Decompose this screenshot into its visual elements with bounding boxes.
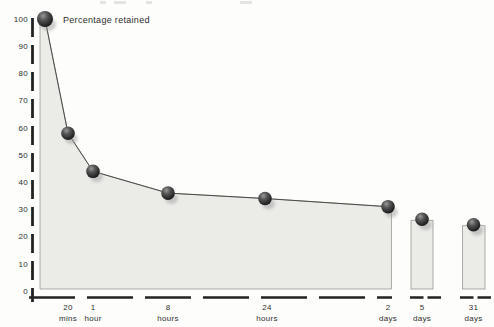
y-tick-label: 10 [19,260,29,269]
data-point [61,126,75,140]
y-tick-label: 90 [19,42,29,51]
x-tick-value: 31 [469,303,479,312]
y-tick-label: 100 [14,15,28,24]
x-tick-value: 8 [166,303,171,312]
x-tick-unit: hours [256,314,278,323]
x-tick-unit: hours [157,314,179,323]
cropped-caption-artifact [100,1,270,4]
x-tick-unit: days [413,314,431,323]
x-tick-unit: hour [84,314,101,323]
y-tick-label: 60 [19,124,29,133]
y-tick-label: 40 [19,178,29,187]
retention-chart: Percentage retained100908070605040302010… [0,0,494,327]
y-tick-label: 70 [19,96,29,105]
x-tick-value: 20 [63,303,73,312]
data-point [161,186,175,200]
y-tick-label: 30 [19,205,29,214]
data-point [415,212,429,226]
x-tick-value: 24 [262,303,272,312]
column-5-days [411,220,433,289]
chart-title: Percentage retained [63,15,150,25]
forgetting-curve-figure: Percentage retained100908070605040302010… [0,0,494,327]
data-point [258,192,272,206]
column-31-days [463,226,486,289]
x-tick-unit: days [464,314,482,323]
data-point [37,11,53,27]
y-tick-label: 0 [23,287,28,296]
x-tick-value: 1 [91,303,96,312]
y-tick-label: 80 [19,69,29,78]
y-tick-label: 20 [19,232,29,241]
y-tick-label: 50 [19,151,29,160]
data-point [86,165,100,179]
x-tick-value: 5 [420,303,425,312]
retention-area [40,19,392,289]
data-point [467,218,481,232]
x-tick-unit: mins [59,314,77,323]
x-tick-unit: days [379,314,397,323]
x-tick-value: 2 [386,303,391,312]
data-point [381,200,395,214]
